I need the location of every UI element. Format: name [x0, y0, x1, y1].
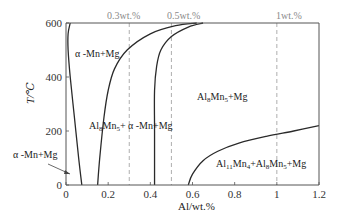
ref-label-0.3: 0.3wt.%	[107, 10, 140, 21]
y-tick-label: 400	[46, 71, 63, 83]
x-tick-label: 0.4	[143, 188, 157, 200]
y-axis-title: T/℃	[24, 82, 36, 104]
x-tick-label: 1.2	[312, 188, 326, 200]
arrowhead-icon	[64, 170, 70, 174]
phase-boundary-3	[188, 126, 319, 185]
x-tick-label: 0.8	[228, 188, 242, 200]
ref-label-0.5: 0.5wt.%	[167, 10, 200, 21]
axis-ticks: 00.20.40.60.811.20200400600	[46, 17, 326, 200]
region-label-alpha-mn-mg-upper: α -Mn+Mg	[75, 48, 120, 59]
phase-diagram: 00.20.40.60.811.20200400600 0.3wt.% 0.5w…	[0, 0, 340, 224]
x-tick-label: 0.6	[186, 188, 200, 200]
y-tick-label: 200	[46, 125, 63, 137]
x-tick-label: 1	[274, 188, 280, 200]
region-label-al11mn4-al8mn5-mg: Al11Mn4+Al8Mn5+Mg	[216, 158, 306, 171]
x-axis-title: Al/wt.%	[178, 200, 215, 212]
region-label-al8mn5-alpha-mn-mg: Al8Mn5+ α -Mn+Mg	[89, 120, 173, 133]
x-tick-label: 0.2	[101, 188, 115, 200]
y-tick-label: 0	[57, 179, 63, 191]
x-tick-label: 0	[63, 188, 69, 200]
ref-label-1: 1wt.%	[276, 10, 302, 21]
phase-boundary-2	[154, 23, 203, 185]
region-label-al8mn5-mg: Al8Mn5+Mg	[197, 91, 247, 104]
region-label-alpha-mn-mg-lower: α -Mn+Mg	[13, 149, 58, 160]
y-tick-label: 600	[46, 17, 63, 29]
